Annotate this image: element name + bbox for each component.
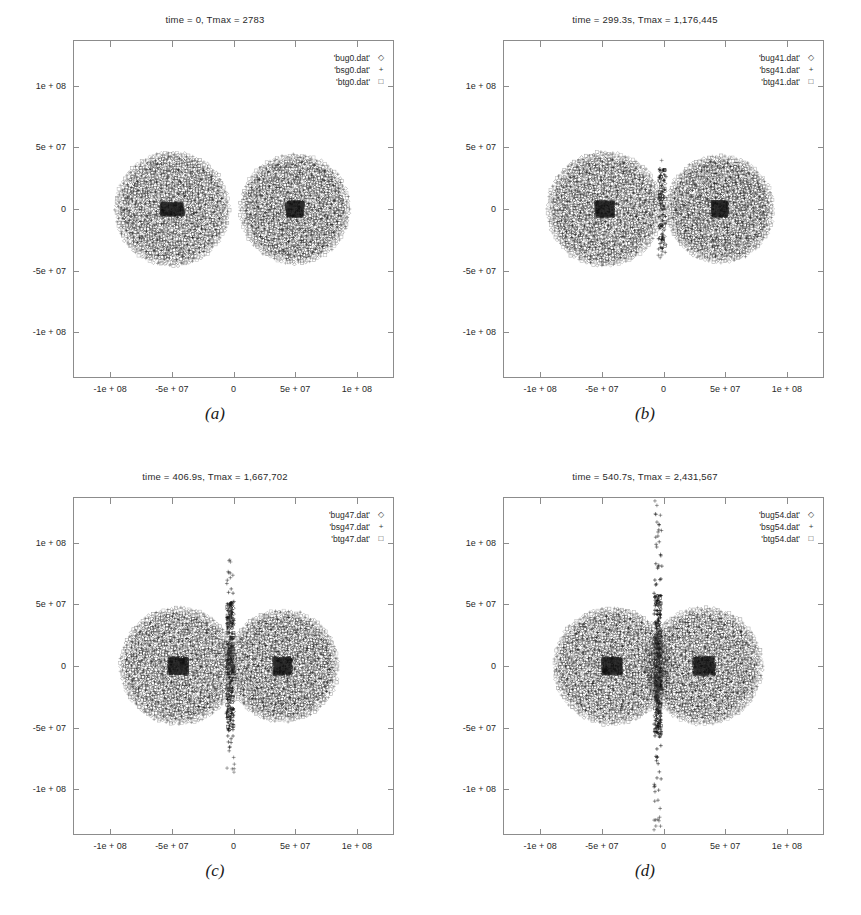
panel-c-title: time = 406.9s, Tmax = 1,667,702 — [0, 471, 430, 482]
x-axis-label: 0 — [661, 384, 666, 394]
y-axis-label: 5e + 07 — [434, 142, 496, 152]
y-axis-tick — [818, 209, 824, 210]
x-axis-label: 1e + 08 — [342, 841, 372, 851]
y-axis-tick — [388, 271, 394, 272]
legend-item: 'bsg54.dat' + — [759, 521, 822, 533]
y-axis-label: -5e + 07 — [4, 266, 66, 276]
x-axis-tick — [540, 372, 541, 378]
legend-label: 'btg47.dat' — [331, 533, 370, 545]
y-axis-label: 1e + 08 — [434, 538, 496, 548]
y-axis-tick — [818, 728, 824, 729]
x-axis-label: 5e + 07 — [280, 841, 310, 851]
y-axis-tick — [388, 728, 394, 729]
x-axis-tick — [234, 372, 235, 378]
legend-item: 'btg47.dat' □ — [329, 533, 392, 545]
legend-label: 'bsg0.dat' — [334, 64, 370, 76]
panel-a-legend: 'bug0.dat' ◇ 'bsg0.dat' + 'btg0.dat' □ — [334, 52, 392, 88]
y-axis-tick — [73, 604, 79, 605]
x-axis-tick — [357, 829, 358, 835]
panel-b-scatter — [504, 41, 823, 377]
x-axis-tick — [664, 829, 665, 835]
legend-item: 'btg0.dat' □ — [334, 76, 392, 88]
panel-d: time = 540.7s, Tmax = 2,431,567 'bug54.d… — [430, 457, 860, 914]
x-axis-tick — [295, 498, 296, 504]
y-axis-tick — [388, 789, 394, 790]
x-axis-label: 1e + 08 — [772, 841, 802, 851]
x-axis-label: 0 — [231, 384, 236, 394]
x-axis-tick — [110, 41, 111, 47]
y-axis-tick — [503, 147, 509, 148]
x-axis-tick — [540, 498, 541, 504]
x-axis-tick — [540, 41, 541, 47]
plus-icon: + — [800, 521, 822, 533]
panel-a: time = 0, Tmax = 2783 'bug0.dat' ◇ 'bsg0… — [0, 0, 430, 457]
x-axis-tick — [110, 829, 111, 835]
x-axis-label: 1e + 08 — [772, 384, 802, 394]
y-axis-label: -1e + 08 — [4, 327, 66, 337]
legend-label: 'bsg54.dat' — [759, 521, 800, 533]
legend-label: 'bug41.dat' — [759, 52, 800, 64]
legend-label: 'bug47.dat' — [329, 509, 370, 521]
y-axis-label: 1e + 08 — [434, 81, 496, 91]
plus-icon: + — [800, 64, 822, 76]
y-axis-tick — [818, 543, 824, 544]
x-axis-tick — [234, 41, 235, 47]
x-axis-tick — [602, 829, 603, 835]
x-axis-tick — [172, 829, 173, 835]
x-axis-tick — [110, 498, 111, 504]
panel-a-title: time = 0, Tmax = 2783 — [0, 14, 430, 25]
x-axis-tick — [787, 41, 788, 47]
x-axis-tick — [725, 41, 726, 47]
diamond-icon: ◇ — [800, 52, 822, 64]
y-axis-tick — [388, 86, 394, 87]
x-axis-label: -1e + 08 — [93, 384, 126, 394]
legend-item: 'btg41.dat' □ — [759, 76, 822, 88]
y-axis-label: 0 — [434, 204, 496, 214]
x-axis-tick — [357, 372, 358, 378]
y-axis-label: 0 — [4, 661, 66, 671]
y-axis-tick — [73, 147, 79, 148]
diamond-icon: ◇ — [800, 509, 822, 521]
legend-label: 'bsg47.dat' — [329, 521, 370, 533]
x-axis-label: 5e + 07 — [280, 384, 310, 394]
x-axis-tick — [725, 372, 726, 378]
y-axis-tick — [503, 666, 509, 667]
y-axis-tick — [73, 86, 79, 87]
panel-b-legend: 'bug41.dat' ◇ 'bsg41.dat' + 'btg41.dat' … — [759, 52, 822, 88]
y-axis-label: 1e + 08 — [4, 81, 66, 91]
y-axis-tick — [818, 332, 824, 333]
y-axis-tick — [503, 209, 509, 210]
x-axis-tick — [357, 41, 358, 47]
y-axis-label: -5e + 07 — [434, 266, 496, 276]
legend-label: 'bsg41.dat' — [759, 64, 800, 76]
y-axis-tick — [73, 789, 79, 790]
y-axis-tick — [73, 209, 79, 210]
x-axis-label: -5e + 07 — [585, 841, 618, 851]
y-axis-tick — [818, 147, 824, 148]
y-axis-tick — [503, 604, 509, 605]
x-axis-tick — [787, 498, 788, 504]
legend-item: 'bug54.dat' ◇ — [759, 509, 822, 521]
legend-label: 'btg41.dat' — [761, 76, 800, 88]
y-axis-tick — [503, 728, 509, 729]
x-axis-tick — [172, 372, 173, 378]
panel-d-scatter — [504, 498, 823, 834]
x-axis-label: -5e + 07 — [155, 841, 188, 851]
panel-d-legend: 'bug54.dat' ◇ 'bsg54.dat' + 'btg54.dat' … — [759, 509, 822, 545]
x-axis-label: 5e + 07 — [710, 384, 740, 394]
legend-item: 'bsg0.dat' + — [334, 64, 392, 76]
x-axis-tick — [295, 372, 296, 378]
y-axis-tick — [818, 789, 824, 790]
legend-item: 'bug0.dat' ◇ — [334, 52, 392, 64]
y-axis-label: 0 — [434, 661, 496, 671]
y-axis-label: 5e + 07 — [434, 599, 496, 609]
x-axis-tick — [172, 41, 173, 47]
legend-label: 'btg0.dat' — [336, 76, 370, 88]
y-axis-tick — [818, 86, 824, 87]
x-axis-tick — [295, 829, 296, 835]
legend-label: 'bug0.dat' — [334, 52, 370, 64]
panel-b-plot-area — [503, 40, 824, 378]
y-axis-tick — [503, 789, 509, 790]
diamond-icon: ◇ — [370, 509, 392, 521]
y-axis-label: -1e + 08 — [4, 784, 66, 794]
